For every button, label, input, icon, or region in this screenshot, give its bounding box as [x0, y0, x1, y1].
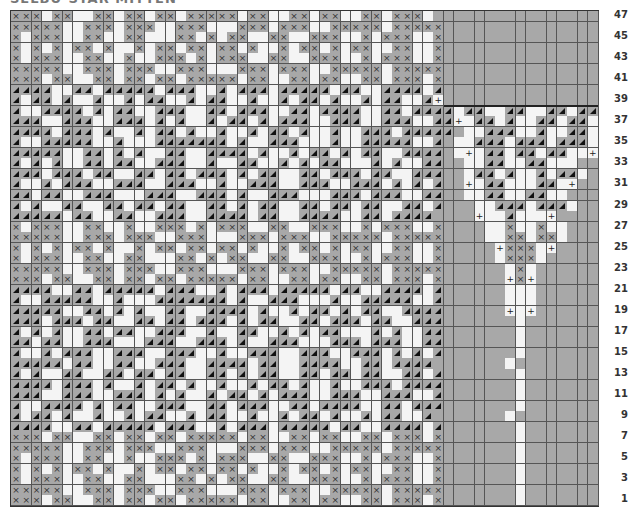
cross-stitch-cell	[217, 432, 228, 443]
cross-stitch-cell	[11, 253, 22, 264]
gray-cell	[567, 74, 578, 85]
white-cell	[42, 274, 53, 285]
white-cell	[238, 43, 249, 54]
white-cell	[145, 327, 156, 338]
gray-cell	[505, 401, 516, 412]
white-cell	[124, 201, 135, 212]
triangle-stitch-cell	[372, 337, 383, 348]
cross-stitch-cell	[166, 432, 177, 443]
triangle-stitch-cell	[93, 401, 104, 412]
triangle-stitch-cell	[248, 179, 259, 190]
triangle-stitch-cell	[433, 422, 444, 433]
white-cell	[124, 137, 135, 148]
triangle-stitch-cell	[269, 369, 280, 380]
triangle-stitch-cell	[42, 295, 53, 306]
white-cell	[310, 106, 321, 117]
cross-stitch-cell	[382, 253, 393, 264]
triangle-stitch-cell	[135, 348, 146, 359]
gray-cell	[578, 401, 589, 412]
triangle-stitch-cell	[83, 116, 94, 127]
white-cell	[258, 253, 269, 264]
cross-stitch-cell	[392, 64, 403, 75]
white-cell	[217, 253, 228, 264]
cross-stitch-cell	[361, 485, 372, 496]
cross-stitch-cell	[93, 274, 104, 285]
triangle-stitch-cell	[114, 179, 125, 190]
gray-cell	[464, 380, 475, 391]
gray-cell	[547, 401, 558, 412]
triangle-stitch-cell	[413, 179, 424, 190]
triangle-stitch-cell	[402, 85, 413, 96]
triangle-stitch-cell	[207, 169, 218, 180]
cross-stitch-cell	[52, 11, 63, 22]
white-cell	[145, 148, 156, 159]
white-cell	[186, 158, 197, 169]
white-cell	[114, 190, 125, 201]
white-cell	[382, 358, 393, 369]
gray-cell	[526, 432, 537, 443]
cross-stitch-cell	[176, 22, 187, 33]
cross-stitch-cell	[124, 74, 135, 85]
triangle-stitch-cell	[258, 316, 269, 327]
gray-cell	[536, 22, 547, 33]
white-cell	[258, 158, 269, 169]
white-cell	[166, 32, 177, 43]
cross-stitch-cell	[83, 64, 94, 75]
cross-stitch-cell	[196, 232, 207, 243]
cross-stitch-cell	[382, 222, 393, 233]
triangle-stitch-cell	[186, 295, 197, 306]
white-cell	[196, 369, 207, 380]
triangle-stitch-cell	[444, 127, 455, 138]
triangle-stitch-cell	[104, 369, 115, 380]
triangle-stitch-cell	[217, 285, 228, 296]
gray-cell	[464, 348, 475, 359]
gray-cell	[495, 53, 506, 64]
white-cell	[279, 211, 290, 222]
triangle-stitch-cell	[186, 127, 197, 138]
white-cell	[382, 485, 393, 496]
triangle-stitch-cell	[248, 348, 259, 359]
cross-stitch-cell	[135, 253, 146, 264]
cross-stitch-cell	[361, 32, 372, 43]
triangle-stitch-cell	[11, 211, 22, 222]
white-cell	[516, 380, 527, 391]
triangle-stitch-cell	[145, 201, 156, 212]
cross-stitch-cell	[196, 43, 207, 54]
triangle-stitch-cell	[299, 327, 310, 338]
triangle-stitch-cell	[73, 422, 84, 433]
cross-stitch-cell	[433, 464, 444, 475]
triangle-stitch-cell	[351, 422, 362, 433]
triangle-stitch-cell	[567, 137, 578, 148]
white-cell	[495, 169, 506, 180]
triangle-stitch-cell	[217, 358, 228, 369]
triangle-stitch-cell	[104, 190, 115, 201]
gray-cell	[557, 74, 568, 85]
triangle-stitch-cell	[114, 158, 125, 169]
gray-cell	[567, 211, 578, 222]
gray-cell	[505, 474, 516, 485]
cross-stitch-cell	[402, 253, 413, 264]
triangle-stitch-cell	[155, 337, 166, 348]
white-cell	[423, 11, 434, 22]
white-cell	[495, 222, 506, 233]
white-cell	[320, 337, 331, 348]
gray-cell	[557, 253, 568, 264]
gray-cell	[567, 264, 578, 275]
triangle-stitch-cell	[341, 190, 352, 201]
triangle-stitch-cell	[83, 190, 94, 201]
white-cell	[145, 432, 156, 443]
cross-stitch-cell	[402, 432, 413, 443]
cross-stitch-cell	[176, 485, 187, 496]
white-cell	[207, 243, 218, 254]
triangle-stitch-cell	[433, 306, 444, 317]
white-cell	[516, 285, 527, 296]
white-cell	[341, 453, 352, 464]
triangle-stitch-cell	[382, 390, 393, 401]
white-cell	[557, 190, 568, 201]
white-cell	[402, 95, 413, 106]
white-cell	[423, 495, 434, 506]
cross-stitch-cell	[186, 253, 197, 264]
cross-stitch-cell	[413, 485, 424, 496]
triangle-stitch-cell	[351, 106, 362, 117]
white-cell	[155, 369, 166, 380]
